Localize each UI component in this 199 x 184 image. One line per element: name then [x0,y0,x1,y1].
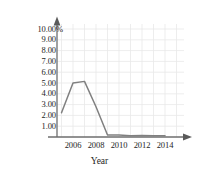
y-tick-2: 2.00 [42,111,56,120]
y-tick-9: 9.00 [42,35,56,44]
y-tick-4: 4.00 [42,89,56,98]
vertical-gridlines [62,24,177,137]
x-tick-2014: 2014 [152,141,178,150]
x-axis-title: Year [0,156,199,166]
y-tick-8: 8.00 [42,46,56,55]
rate-series-line [62,81,166,135]
federal-funds-rate-chart: 10.00% 9.00 8.00 7.00 6.00 5.00 4.00 3.0… [0,0,199,184]
y-tick-3: 3.00 [42,100,56,109]
y-tick-10: 10.00% [37,25,63,34]
y-tick-7: 7.00 [42,57,56,66]
y-tick-5: 5.00 [42,79,56,88]
y-tick-1: 1.00 [42,122,56,131]
y-tick-6: 6.00 [42,68,56,77]
